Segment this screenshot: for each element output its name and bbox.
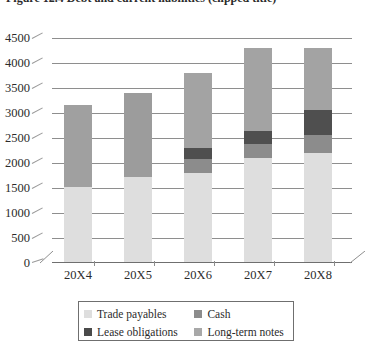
floor-left-icon: [40, 251, 54, 264]
y-tick-label: 4500: [5, 32, 30, 44]
legend-swatch-lease-obligations-icon: [84, 328, 92, 336]
y-tick-connector: [32, 82, 43, 89]
legend-row-2: Lease obligations Long-term notes: [84, 323, 293, 341]
plot-area: [52, 32, 352, 262]
x-tick-mark: [214, 261, 215, 266]
bar-segment-long-term-notes: [64, 105, 92, 187]
chart-title-clipped: Figure 12.4 Debt and current liabilities…: [0, 0, 373, 7]
x-axis: 20X4 20X5 20X6 20X7 20X8: [52, 266, 362, 286]
y-tick-label: 3500: [5, 82, 30, 94]
legend-item-cash[interactable]: Cash: [194, 309, 293, 320]
bar-segment-trade-payables: [184, 173, 212, 262]
bar-20X8[interactable]: [304, 48, 332, 262]
legend-row-1: Trade payables Cash: [84, 305, 293, 323]
floor-corner-right: [350, 250, 366, 263]
bar-segment-trade-payables: [244, 158, 272, 262]
bar-segment-long-term-notes: [244, 48, 272, 131]
x-tick-mark: [274, 261, 275, 266]
bar-segment-cash: [304, 135, 332, 153]
legend-swatch-long-term-notes-icon: [194, 328, 202, 336]
bar-segment-cash: [244, 144, 272, 158]
legend-label-trade-payables: Trade payables: [97, 309, 167, 320]
x-tick-label-20X6: 20X6: [168, 268, 228, 283]
y-tick-connector: [32, 207, 43, 214]
y-tick-connector: [32, 57, 43, 64]
chart-legend: Trade payables Cash Lease obligations Lo…: [78, 301, 294, 341]
y-tick-label: 0: [24, 257, 30, 269]
x-tick-label-20X4: 20X4: [48, 268, 108, 283]
y-axis: 4500 4000 3500 3000 2500 2000 1500 1000 …: [0, 32, 44, 268]
y-tick-connector: [32, 232, 43, 239]
y-tick-label: 1000: [5, 207, 30, 219]
floor-right-icon: [350, 251, 366, 264]
y-tick-label: 1500: [5, 182, 30, 194]
bar-segment-trade-payables: [64, 187, 92, 262]
bar-20X4[interactable]: [64, 105, 92, 262]
legend-item-lease-obligations[interactable]: Lease obligations: [84, 327, 194, 338]
bar-20X6[interactable]: [184, 73, 212, 262]
bars-container: [52, 32, 352, 262]
x-tick-label-20X7: 20X7: [228, 268, 288, 283]
y-tick-label: 500: [11, 232, 30, 244]
y-tick-label: 3000: [5, 107, 30, 119]
bar-segment-trade-payables: [304, 153, 332, 262]
y-tick-label: 2500: [5, 132, 30, 144]
y-tick-connector: [32, 107, 43, 114]
x-axis-baseline: [52, 262, 352, 263]
x-tick-label-20X8: 20X8: [288, 268, 348, 283]
x-tick-mark: [334, 261, 335, 266]
bar-segment-cash: [184, 159, 212, 173]
x-tick-label-20X5: 20X5: [108, 268, 168, 283]
y-tick-connector: [32, 157, 43, 164]
chart-title-text: Figure 12.4 Debt and current liabilities…: [6, 0, 276, 6]
legend-label-long-term-notes: Long-term notes: [207, 327, 283, 338]
legend-label-lease-obligations: Lease obligations: [97, 327, 178, 338]
bar-segment-long-term-notes: [304, 48, 332, 110]
bar-segment-long-term-notes: [184, 73, 212, 148]
y-tick-label: 2000: [5, 157, 30, 169]
legend-swatch-cash-icon: [194, 310, 202, 318]
floor-corner-left: [40, 250, 54, 263]
bar-segment-lease-obligations: [304, 110, 332, 135]
legend-swatch-trade-payables-icon: [84, 310, 92, 318]
bar-segment-long-term-notes: [124, 93, 152, 177]
bar-segment-trade-payables: [124, 177, 152, 262]
legend-item-trade-payables[interactable]: Trade payables: [84, 309, 194, 320]
bar-20X5[interactable]: [124, 93, 152, 262]
stacked-bar-chart: Figure 12.4 Debt and current liabilities…: [0, 0, 373, 348]
bar-segment-lease-obligations: [244, 131, 272, 144]
x-tick-mark: [154, 261, 155, 266]
y-tick-connector: [32, 182, 43, 189]
bar-segment-lease-obligations: [184, 148, 212, 159]
x-tick-mark: [94, 261, 95, 266]
legend-label-cash: Cash: [207, 309, 230, 320]
legend-item-long-term-notes[interactable]: Long-term notes: [194, 327, 293, 338]
y-tick-label: 4000: [5, 57, 30, 69]
bar-20X7[interactable]: [244, 48, 272, 262]
y-tick-connector: [32, 32, 43, 39]
y-tick-connector: [32, 132, 43, 139]
